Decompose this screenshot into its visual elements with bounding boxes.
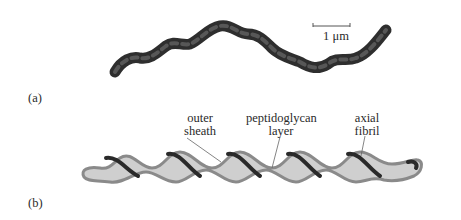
scale-bar-label: 1 μm: [316, 30, 356, 43]
panel-a-label: (a): [28, 91, 42, 106]
panel-b-label: (b): [28, 196, 43, 211]
callout-axial-fibril-line2: fibril: [342, 125, 392, 138]
callout-outer-sheath: outer sheath: [172, 112, 228, 138]
scale-bar: [313, 23, 350, 27]
schematic-spirochaete: [83, 136, 422, 182]
callout-peptidoglycan-layer: peptidoglycan layer: [246, 112, 316, 138]
figure-canvas: [0, 0, 461, 220]
callout-axial-fibril: axial fibril: [342, 112, 392, 138]
callout-outer-sheath-line2: sheath: [172, 125, 228, 138]
callout-peptidoglycan-line2: layer: [246, 125, 316, 138]
